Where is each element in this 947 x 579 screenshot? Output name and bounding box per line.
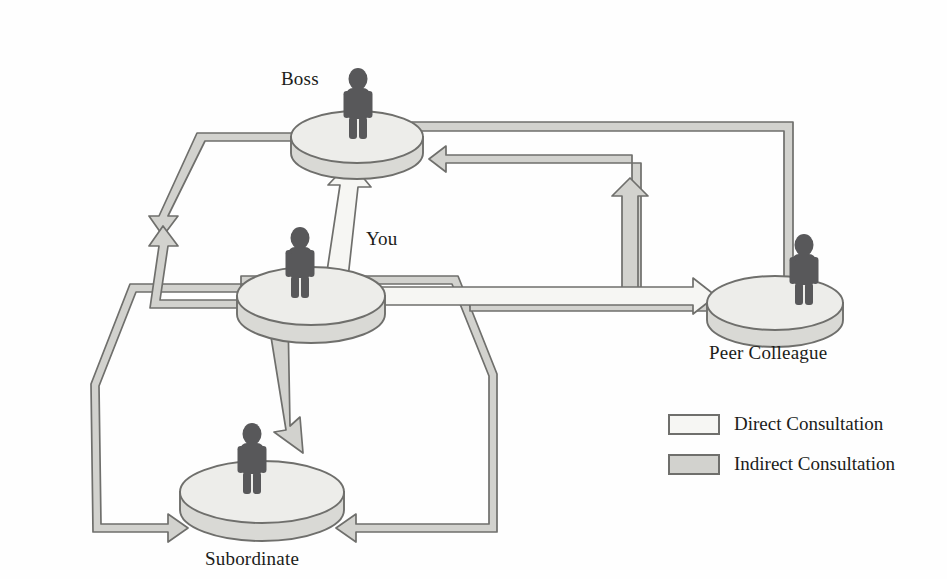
diagram-canvas: Boss You Peer Colleague Subordinate Dire… [0, 0, 947, 579]
node-label-subordinate: Subordinate [205, 548, 299, 570]
node-subordinate[interactable] [180, 423, 344, 541]
node-label-peer: Peer Colleague [709, 342, 827, 364]
node-peer[interactable] [707, 234, 843, 347]
node-label-you: You [366, 228, 397, 250]
legend-item-direct: Direct Consultation [668, 409, 895, 439]
legend-label-direct: Direct Consultation [734, 413, 883, 435]
legend-swatch-indirect [668, 454, 720, 475]
node-label-boss: Boss [281, 68, 319, 90]
diagram-svg [0, 0, 947, 579]
legend-item-indirect: Indirect Consultation [668, 449, 895, 479]
legend-swatch-direct [668, 414, 720, 435]
node-you[interactable] [237, 227, 385, 343]
legend-label-indirect: Indirect Consultation [734, 453, 895, 475]
edge-indirect-boss-peer-outer [412, 122, 803, 302]
legend: Direct Consultation Indirect Consultatio… [668, 409, 895, 489]
